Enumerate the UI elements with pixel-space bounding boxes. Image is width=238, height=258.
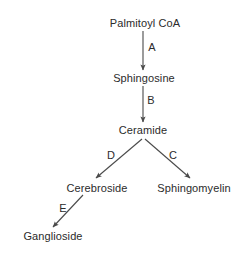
node-sphingomyelin: Sphingomyelin — [157, 182, 230, 194]
node-cerebroside: Cerebroside — [66, 182, 127, 194]
arrow-e — [53, 195, 83, 227]
pathway-diagram: Palmitoyl CoA Sphingosine Ceramide Cereb… — [0, 0, 238, 258]
arrow-d — [96, 139, 142, 178]
edge-label-c: C — [169, 149, 177, 161]
node-palmitoyl-coa: Palmitoyl CoA — [110, 17, 180, 29]
node-ceramide: Ceramide — [119, 124, 168, 136]
edge-label-a: A — [148, 41, 155, 53]
edge-label-d: D — [107, 149, 115, 161]
edge-label-b: B — [147, 94, 154, 106]
edge-label-e: E — [59, 202, 66, 214]
node-sphingosine: Sphingosine — [113, 72, 175, 84]
node-ganglioside: Ganglioside — [23, 230, 82, 242]
arrow-c — [145, 139, 190, 178]
